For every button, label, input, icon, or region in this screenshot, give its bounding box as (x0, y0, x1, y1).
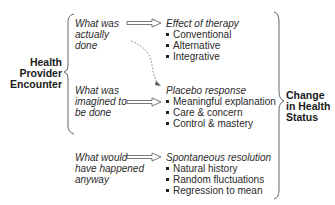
dashed-arrow-icon (131, 41, 159, 84)
arrow-right-icon (127, 153, 161, 161)
left-brace-icon (64, 14, 74, 134)
arrow-right-icon (127, 98, 161, 106)
dashed-arrowhead-icon (155, 81, 161, 86)
right-brace-icon (274, 12, 284, 199)
diagram-connectors (0, 0, 335, 205)
arrow-right-icon (127, 19, 161, 27)
